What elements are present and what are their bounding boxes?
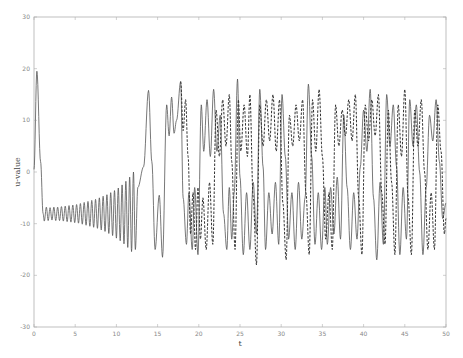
chart: 3020100-10-20-30 05101520253035404550 t …: [0, 0, 463, 358]
y-tick-label: -10: [20, 220, 30, 227]
x-tick-label: 40: [360, 330, 368, 337]
x-axis-label: t: [238, 339, 242, 348]
x-tick-label: 20: [195, 330, 203, 337]
x-axis: 05101520253035404550: [32, 17, 450, 337]
y-tick-label: 10: [22, 116, 30, 123]
x-tick-label: 35: [319, 330, 327, 337]
y-tick-label: -20: [20, 271, 30, 278]
y-axis: 3020100-10-20-30: [20, 13, 446, 330]
x-tick-label: 45: [401, 330, 409, 337]
x-tick-label: 25: [236, 330, 244, 337]
x-tick-label: 5: [73, 330, 77, 337]
plot-lines: [34, 71, 446, 265]
x-tick-label: 30: [277, 330, 285, 337]
x-tick-label: 0: [32, 330, 36, 337]
y-tick-label: 30: [22, 13, 30, 20]
y-tick-label: 20: [22, 65, 30, 72]
x-tick-label: 15: [154, 330, 162, 337]
y-tick-label: -30: [20, 323, 30, 330]
y-tick-label: 0: [26, 168, 30, 175]
x-tick-label: 10: [113, 330, 121, 337]
y-axis-label: u-value: [13, 157, 22, 187]
x-tick-label: 50: [442, 330, 450, 337]
